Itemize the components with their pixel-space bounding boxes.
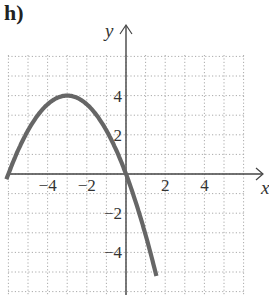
x-axis-label: x xyxy=(260,177,269,198)
y-tick-label: 2 xyxy=(114,126,123,145)
x-tick-label: −4 xyxy=(39,176,58,195)
x-tick-label: −2 xyxy=(78,176,96,195)
x-tick-label: 4 xyxy=(200,176,209,195)
y-tick-label: −4 xyxy=(104,243,123,262)
y-tick-label: 4 xyxy=(114,87,123,106)
y-axis-label: y xyxy=(103,20,114,41)
chart-plot: yx−4−22442−2−4 xyxy=(0,0,269,301)
y-tick-label: −2 xyxy=(104,204,122,223)
x-tick-label: 2 xyxy=(161,176,170,195)
